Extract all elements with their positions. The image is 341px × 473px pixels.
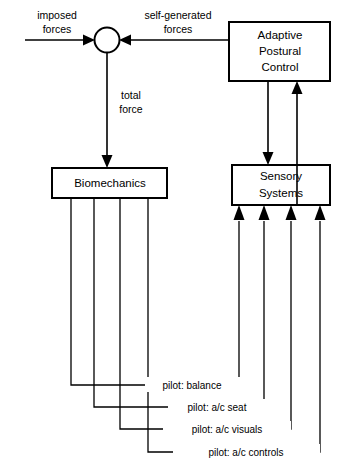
arrow-head-sensory-to-apc [292,81,303,94]
adaptive-postural-control-label-line1: Adaptive [258,29,303,41]
feedback-loop-balance [71,198,245,385]
sensory-systems-label-line2: Systems [259,187,303,199]
total-force-label-line1: total [121,89,141,101]
arrow-head-loop-ac-controls [315,205,326,220]
arrow-head-imposed-forces [83,35,95,46]
arrow-head-self-generated-forces [119,35,131,46]
arrow-head-apc-to-sensory [263,152,274,165]
self-generated-forces-edge [119,35,229,46]
adaptive-postural-control-label-line3: Control [261,61,298,73]
block-diagram: Adaptive Postural Control Biomechanics S… [0,0,341,473]
imposed-forces-label-line2: forces [43,23,72,35]
apc-to-sensory-edge [263,81,274,165]
arrow-head-loop-ac-visuals [286,205,297,220]
loop-label-ac-seat: pilot: a/c seat [188,402,247,413]
self-generated-forces-label-line2: forces [164,23,193,35]
diagram-canvas: Adaptive Postural Control Biomechanics S… [0,0,341,473]
arrow-head-total-force [102,155,113,168]
arrow-head-loop-ac-seat [259,205,270,220]
adaptive-postural-control-label-line2: Postural [259,45,301,57]
imposed-forces-label-line1: imposed [37,9,77,21]
biomechanics-label: Biomechanics [74,177,146,189]
sensory-systems-label-line1: Sensory [260,170,302,182]
arrow-head-loop-balance [234,205,245,220]
self-generated-forces-label-line1: self-generated [144,9,211,21]
loop-label-ac-visuals: pilot: a/c visuals [192,424,263,435]
loop-label-balance: pilot: balance [163,380,222,391]
summing-junction [95,28,120,53]
total-force-label-line2: force [119,103,143,115]
total-force-edge [102,53,113,168]
loop-label-ac-controls: pilot: a/c controls [208,447,283,458]
feedback-loop-ac-visuals [120,198,297,429]
imposed-forces-edge [25,35,95,46]
